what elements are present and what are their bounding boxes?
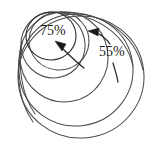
fourth-circle <box>15 6 91 84</box>
leader-arrowhead-55 <box>88 28 99 36</box>
diagram-canvas: 75% 55% <box>0 0 163 147</box>
percentage-label-55: 55% <box>99 45 125 59</box>
percentage-label-75: 75% <box>40 24 66 38</box>
circles-svg <box>0 0 163 147</box>
top-right-sweep-arc <box>60 12 143 70</box>
leader-tail-55 <box>113 63 118 82</box>
